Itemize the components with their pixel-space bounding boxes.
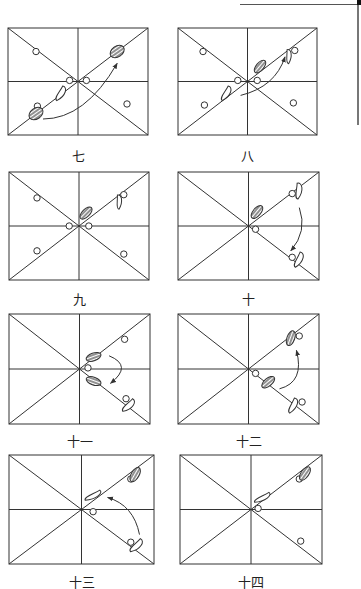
panel-label: 八 (218, 146, 278, 165)
position-marker (66, 223, 72, 229)
position-marker (85, 365, 91, 371)
position-marker (121, 336, 127, 342)
position-marker (299, 399, 305, 405)
empty-foot (286, 50, 292, 64)
grid-diagram (178, 314, 319, 424)
weighted-foot (297, 465, 312, 482)
weighted-foot (249, 204, 265, 221)
position-marker (90, 508, 96, 514)
position-marker (200, 48, 206, 54)
empty-foot (253, 492, 271, 504)
movement-arrow (109, 356, 121, 384)
panel-label: 十二 (219, 431, 279, 450)
movement-arrow (43, 63, 117, 119)
position-marker (296, 333, 302, 339)
position-marker (86, 223, 92, 229)
panel-label: 七 (48, 146, 108, 165)
panel-label: 十 (219, 289, 279, 308)
weighted-foot (108, 43, 127, 61)
position-marker (254, 77, 260, 83)
panel-p8 (178, 28, 317, 135)
position-marker (292, 47, 298, 53)
position-marker (123, 396, 129, 402)
panel-p12 (178, 314, 319, 424)
empty-foot (294, 183, 303, 200)
weighted-foot (85, 351, 102, 364)
position-marker (34, 195, 40, 201)
weighted-foot (128, 466, 143, 484)
position-marker (34, 248, 40, 254)
grid-diagram (9, 455, 154, 564)
position-marker (128, 539, 134, 545)
position-marker (33, 48, 39, 54)
grid-diagram (9, 172, 149, 280)
weighted-foot (260, 374, 277, 390)
panel-label: 九 (49, 289, 109, 308)
position-marker (201, 102, 207, 108)
position-marker (289, 254, 295, 260)
weighted-foot (85, 375, 102, 388)
position-marker (255, 505, 261, 511)
position-marker (289, 190, 295, 196)
page-corner-mark (357, 0, 361, 5)
panel-label: 十四 (221, 572, 281, 589)
grid-diagram (9, 314, 150, 424)
position-marker (66, 77, 72, 83)
position-marker (121, 191, 127, 197)
panel-p9 (9, 172, 149, 280)
page-right-rule (357, 0, 359, 125)
position-marker (298, 538, 304, 544)
weighted-foot (27, 105, 46, 123)
panel-p10 (178, 172, 319, 280)
panel-p14 (180, 455, 322, 564)
movement-arrow (291, 208, 302, 251)
panel-label: 十一 (50, 431, 110, 450)
position-marker (290, 100, 296, 106)
position-marker (252, 370, 258, 376)
empty-foot (116, 195, 122, 210)
panel-p11 (9, 314, 150, 424)
grid-diagram (180, 455, 322, 564)
panel-p13 (9, 455, 154, 564)
position-marker (252, 226, 258, 232)
panel-p7 (8, 28, 148, 135)
grid-diagram (178, 28, 317, 135)
page-top-rule (240, 4, 358, 5)
position-marker (124, 101, 130, 107)
movement-arrow (280, 350, 299, 389)
grid-diagram (8, 28, 148, 135)
weighted-foot (285, 330, 298, 347)
empty-foot (54, 86, 68, 102)
movement-arrow (108, 498, 140, 535)
position-marker (83, 77, 89, 83)
position-marker (121, 251, 127, 257)
panel-label: 十三 (52, 572, 112, 589)
grid-diagram (178, 172, 319, 280)
position-marker (235, 77, 241, 83)
weighted-foot (78, 205, 94, 221)
